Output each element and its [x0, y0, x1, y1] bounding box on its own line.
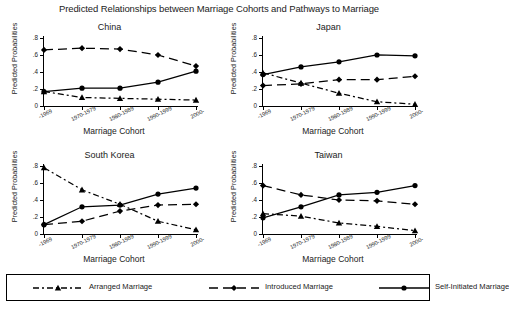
- data-point-marker: [260, 83, 266, 89]
- data-point-marker: [260, 72, 265, 77]
- panel-china: ChinaPredicted ProbabilitiesMarriage Coh…: [0, 22, 219, 146]
- series-layer: [219, 150, 438, 274]
- data-point-marker: [412, 101, 418, 107]
- series-line: [44, 168, 196, 230]
- data-point-marker: [374, 190, 379, 195]
- data-point-marker: [41, 47, 47, 53]
- data-point-marker: [117, 86, 122, 91]
- legend-label: Introduced Marriage: [265, 282, 333, 291]
- data-point-marker: [193, 186, 198, 191]
- data-point-marker: [298, 81, 304, 87]
- series-layer: [0, 22, 219, 146]
- data-point-marker: [155, 191, 160, 196]
- data-point-marker: [260, 182, 266, 188]
- data-point-marker: [193, 69, 198, 74]
- panel-south-korea: South KoreaPredicted ProbabilitiesMarria…: [0, 150, 219, 274]
- data-point-marker: [193, 227, 199, 233]
- data-point-marker: [155, 218, 161, 224]
- data-point-marker: [336, 90, 342, 96]
- data-point-marker: [412, 53, 417, 58]
- data-point-marker: [155, 80, 160, 85]
- data-point-marker: [79, 86, 84, 91]
- data-point-marker: [298, 213, 304, 219]
- data-point-marker: [336, 192, 341, 197]
- data-point-marker: [298, 204, 303, 209]
- data-point-marker: [374, 77, 380, 83]
- data-point-marker: [117, 208, 123, 214]
- data-point-marker: [374, 198, 380, 204]
- series-layer: [0, 150, 219, 274]
- data-point-marker: [336, 77, 342, 83]
- data-point-marker: [193, 201, 199, 207]
- data-point-marker: [412, 73, 418, 79]
- chart-legend: Arranged MarriageIntroduced MarriageSelf…: [6, 274, 430, 301]
- data-point-marker: [41, 165, 47, 171]
- legend-label: Arranged Marriage: [89, 282, 152, 291]
- data-point-marker: [412, 201, 418, 207]
- panel-taiwan: TaiwanPredicted ProbabilitiesMarriage Co…: [219, 150, 438, 274]
- data-point-marker: [79, 187, 85, 193]
- data-point-marker: [155, 202, 161, 208]
- data-point-marker: [336, 59, 341, 64]
- panel-japan: JapanPredicted ProbabilitiesMarriage Coh…: [219, 22, 438, 146]
- data-point-marker: [298, 64, 303, 69]
- data-point-marker: [79, 204, 84, 209]
- series-line: [263, 55, 415, 75]
- data-point-marker: [336, 197, 342, 203]
- data-point-marker: [117, 46, 123, 52]
- data-point-marker: [79, 218, 85, 224]
- data-point-marker: [117, 203, 122, 208]
- data-point-marker: [155, 52, 161, 58]
- data-point-marker: [260, 215, 265, 220]
- legend-marker-icon: [377, 281, 433, 295]
- legend-marker-icon: [207, 281, 263, 295]
- legend-marker-icon: [31, 281, 87, 295]
- figure-title: Predicted Relationships between Marriage…: [0, 3, 438, 14]
- data-point-marker: [41, 89, 46, 94]
- series-layer: [219, 22, 438, 146]
- data-point-marker: [79, 45, 85, 51]
- data-point-marker: [79, 94, 85, 100]
- data-point-marker: [298, 192, 304, 198]
- legend-label: Self-Initiated Marriage: [435, 282, 509, 291]
- data-point-marker: [412, 183, 417, 188]
- data-point-marker: [193, 63, 199, 69]
- data-point-marker: [374, 52, 379, 57]
- data-point-marker: [41, 222, 46, 227]
